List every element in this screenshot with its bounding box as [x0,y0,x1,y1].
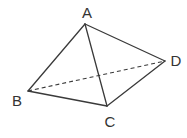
vertex-label-A: A [82,4,92,21]
vertex-label-B: B [12,92,22,109]
edge-AD [85,24,165,61]
edge-BC [28,91,107,106]
vertex-label-C: C [105,113,116,130]
edge-AC [85,24,107,106]
edge-CD [107,61,165,106]
edges [28,24,165,106]
vertex-label-D: D [171,52,182,69]
tetrahedron-diagram: ABCD [0,0,187,138]
